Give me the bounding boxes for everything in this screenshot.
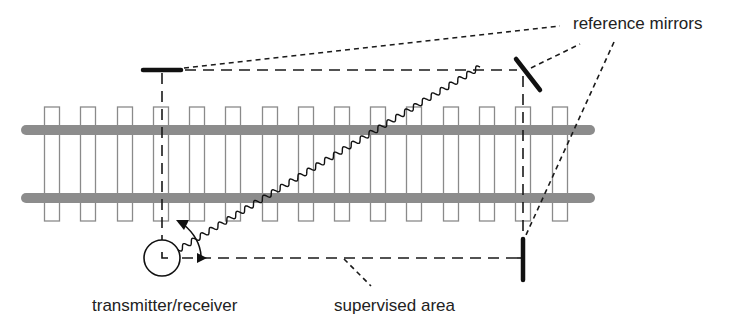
- laser-beam-wave: [178, 66, 480, 251]
- sleeper: [553, 107, 568, 221]
- sleeper: [480, 107, 495, 221]
- sleeper: [81, 107, 96, 221]
- label-transmitter-receiver: transmitter/receiver: [92, 296, 237, 316]
- mirror-top-right: [516, 59, 540, 90]
- track-sleepers: [45, 107, 568, 221]
- sleeper: [118, 107, 133, 221]
- sleeper: [335, 107, 350, 221]
- sleeper: [190, 107, 205, 221]
- label-supervised-area: supervised area: [334, 296, 455, 316]
- sleeper: [371, 107, 386, 221]
- sleeper: [444, 107, 459, 221]
- sleeper: [154, 107, 169, 221]
- label-reference-mirrors: reference mirrors: [573, 14, 702, 34]
- sleeper: [263, 107, 278, 221]
- railway-supervision-diagram: [0, 0, 754, 335]
- sleeper: [407, 107, 422, 221]
- sleeper: [299, 107, 314, 221]
- leader-lines: [184, 26, 614, 286]
- sleeper: [226, 107, 241, 221]
- sleeper: [45, 107, 60, 221]
- transmitter-receiver-icon: [144, 240, 180, 276]
